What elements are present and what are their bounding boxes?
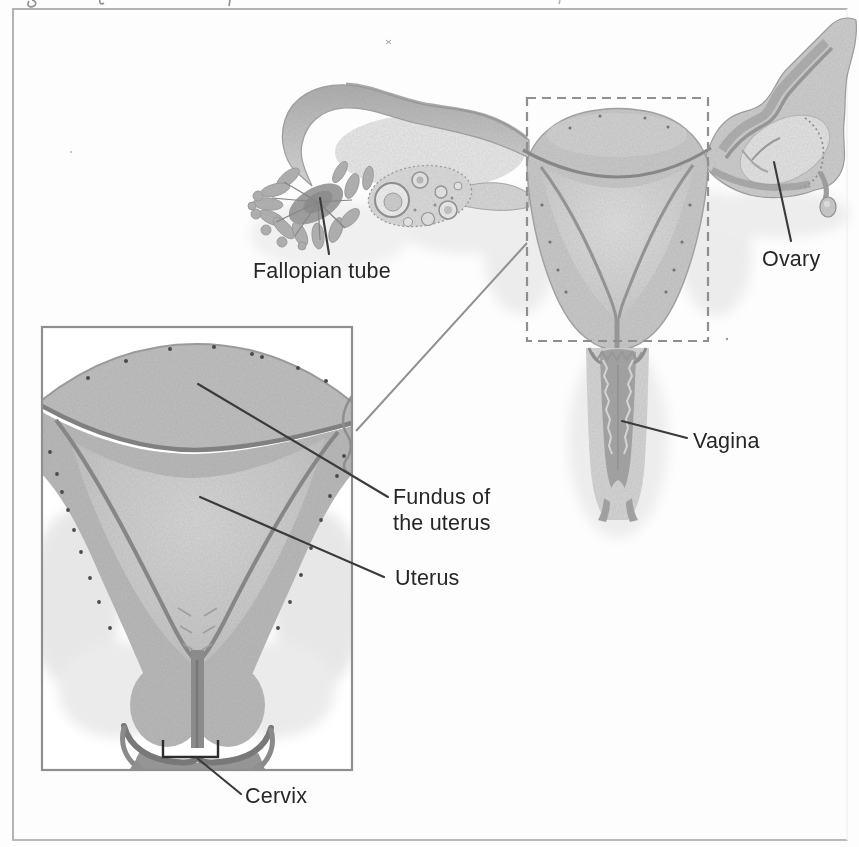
cropped-text-fragments (28, 0, 560, 7)
fallopian-tube-label: Fallopian tube (253, 258, 391, 284)
vagina-canal (586, 348, 649, 522)
inset-magnified-uterus (30, 327, 363, 772)
uterus-label: Uterus (395, 565, 460, 591)
figure-anatomy-diagram: Fallopian tube Ovary Vagina Fundus of th… (0, 0, 859, 847)
vagina-label: Vagina (693, 428, 760, 454)
fundus-label-line2: the uterus (393, 510, 491, 536)
fundus-label: Fundus of the uterus (393, 484, 491, 536)
cervix-label: Cervix (245, 783, 307, 809)
anatomy-illustration (0, 0, 859, 847)
uterus-body (523, 109, 711, 351)
left-ovarian-ligament (464, 183, 529, 211)
fundus-label-line1: Fundus of (393, 484, 491, 510)
ovary-label: Ovary (762, 246, 820, 272)
